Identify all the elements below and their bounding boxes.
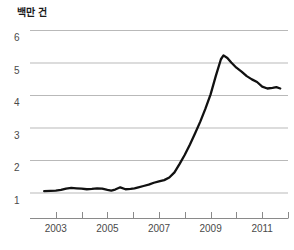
chart-container: 백만 건 123456 20032005200720092011 (0, 0, 294, 250)
y-axis-tick-label: 1 (14, 195, 20, 206)
x-axis-tick-label: 2009 (199, 223, 221, 234)
y-axis-tick-label: 5 (14, 65, 20, 76)
data-line (44, 55, 280, 191)
x-axis-tick-label: 2005 (96, 223, 118, 234)
gridlines (30, 31, 288, 194)
x-axis-tick-label: 2011 (251, 223, 273, 234)
x-axis-tick-label: 2007 (148, 223, 170, 234)
y-axis-tick-label: 3 (14, 130, 20, 141)
data-line-group (44, 55, 280, 191)
y-axis-tick-label: 4 (14, 97, 20, 108)
x-axis-ticks (57, 212, 289, 219)
y-axis-tick-label: 6 (14, 32, 20, 43)
chart-plot-area (0, 0, 294, 250)
y-axis-tick-label: 2 (14, 162, 20, 173)
x-axis-tick-label: 2003 (45, 223, 67, 234)
